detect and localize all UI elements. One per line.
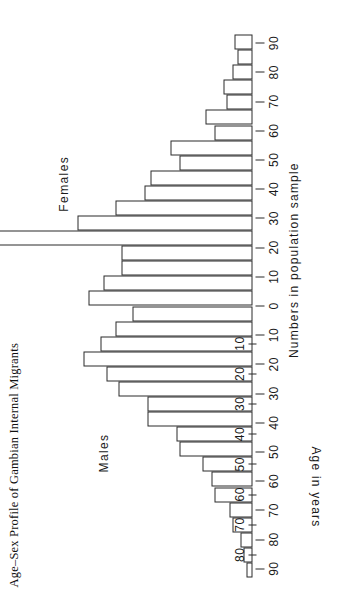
bar-females-75-79 xyxy=(232,64,252,79)
x-axis-tick xyxy=(255,247,264,248)
bar-females-45-49 xyxy=(179,155,252,170)
x-axis-tick xyxy=(255,422,264,423)
bar-females-70-74 xyxy=(223,79,252,94)
x-axis-tick-label: 70 xyxy=(266,503,280,517)
bar-males-65-69 xyxy=(229,502,252,517)
x-axis-tick xyxy=(255,480,264,481)
bar-males-45-49 xyxy=(179,441,252,456)
age-axis-tick xyxy=(248,494,256,495)
x-axis-tick-label: 40 xyxy=(266,415,280,429)
age-axis-tick-label: 10 xyxy=(232,336,246,350)
x-axis-tick xyxy=(255,159,264,160)
bar-females-25-29 xyxy=(77,215,252,230)
x-axis-tick xyxy=(255,393,264,394)
x-axis-label: Numbers in population sample xyxy=(286,162,300,358)
bar-females-20-24 xyxy=(0,230,252,245)
x-axis-tick-label: 80 xyxy=(266,532,280,546)
x-axis-tick-label: 0 xyxy=(266,302,280,309)
bar-females-35-39 xyxy=(144,185,252,200)
age-axis-tick-label: 60 xyxy=(232,487,246,501)
age-axis-tick xyxy=(248,343,256,344)
age-axis-tick-label: 70 xyxy=(232,517,246,531)
age-axis-tick xyxy=(248,403,256,404)
age-axis-tick-label: 50 xyxy=(232,457,246,471)
x-axis-tick xyxy=(255,451,264,452)
population-pyramid-figure: Age–Sex Profile of Gambian Internal Migr… xyxy=(0,0,338,603)
age-axis-tick xyxy=(248,463,256,464)
age-axis-tick-label: 30 xyxy=(232,396,246,410)
x-axis-tick-label: 30 xyxy=(266,386,280,400)
group-label-females: Females xyxy=(56,155,70,211)
x-axis-tick xyxy=(255,188,264,189)
group-label-males: Males xyxy=(96,433,110,472)
x-axis-tick-label: 60 xyxy=(266,473,280,487)
bar-females-60-64 xyxy=(205,109,252,124)
x-axis-tick-label: 90 xyxy=(266,561,280,575)
bar-females-80-84 xyxy=(237,49,252,64)
x-axis-tick-label: 50 xyxy=(266,444,280,458)
x-axis-tick-label: 50 xyxy=(266,152,280,166)
bar-males-75-79 xyxy=(240,532,252,547)
bar-males-10-14 xyxy=(100,336,252,351)
x-axis-tick xyxy=(255,509,264,510)
x-axis-tick-label: 70 xyxy=(266,94,280,108)
x-axis-tick-label: 90 xyxy=(266,35,280,49)
x-axis-tick-label: 60 xyxy=(266,123,280,137)
x-axis-tick xyxy=(255,276,264,277)
age-axis-tick-label: 20 xyxy=(232,366,246,380)
age-axis-tick-label: 40 xyxy=(232,426,246,440)
age-axis-tick xyxy=(248,554,256,555)
x-axis-tick-label: 20 xyxy=(266,240,280,254)
x-axis-tick xyxy=(255,130,264,131)
bar-males-5-9 xyxy=(115,321,252,336)
x-axis-tick-label: 80 xyxy=(266,65,280,79)
bar-females-65-69 xyxy=(226,94,252,109)
bar-females-10-14 xyxy=(121,260,252,275)
bar-males-35-39 xyxy=(147,411,252,426)
bar-females-85+ xyxy=(234,34,252,49)
bar-females-5-9 xyxy=(103,275,252,290)
age-axis-tick xyxy=(248,433,256,434)
bar-females-55-59 xyxy=(214,125,252,140)
x-axis-tick-label: 40 xyxy=(266,181,280,195)
bar-females-30-34 xyxy=(115,200,252,215)
bar-males-55-59 xyxy=(211,471,252,486)
x-axis-tick-label: 10 xyxy=(266,327,280,341)
bar-males-0-4 xyxy=(132,306,252,321)
bar-females-50-54 xyxy=(170,140,252,155)
bar-males-25-29 xyxy=(118,381,252,396)
bar-females-0-4 xyxy=(88,290,252,305)
chart-title: Age–Sex Profile of Gambian Internal Migr… xyxy=(6,342,21,587)
x-axis-tick xyxy=(255,539,264,540)
age-axis-tick xyxy=(248,373,256,374)
x-axis-tick xyxy=(255,101,264,102)
x-axis-tick xyxy=(255,568,264,569)
x-axis-tick xyxy=(255,334,264,335)
x-axis-tick xyxy=(255,71,264,72)
bar-males-85+ xyxy=(246,562,252,577)
x-axis-tick-label: 30 xyxy=(266,211,280,225)
x-axis-tick xyxy=(255,217,264,218)
age-axis-tick-label: 80 xyxy=(232,547,246,561)
x-axis-tick xyxy=(255,42,264,43)
bar-males-20-24 xyxy=(106,366,252,381)
bar-females-15-19 xyxy=(121,245,252,260)
x-axis-tick xyxy=(255,363,264,364)
bar-females-40-44 xyxy=(150,170,252,185)
x-axis-tick-label: 20 xyxy=(266,357,280,371)
x-axis-tick xyxy=(255,305,264,306)
bar-males-15-19 xyxy=(83,351,252,366)
x-axis-tick-label: 10 xyxy=(266,269,280,283)
age-axis-tick xyxy=(248,524,256,525)
rotated-figure-wrapper: Age–Sex Profile of Gambian Internal Migr… xyxy=(0,0,338,603)
y-axis-label: Age in years xyxy=(308,446,322,527)
